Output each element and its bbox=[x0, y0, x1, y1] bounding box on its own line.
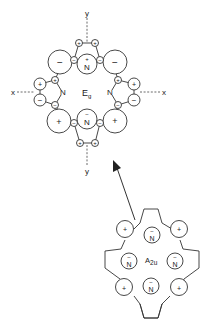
x-axis-label-right: x bbox=[162, 88, 166, 97]
arrow-head-icon bbox=[113, 160, 121, 172]
nitrogen-right-label: N bbox=[107, 88, 113, 97]
charge-sign: + bbox=[93, 140, 97, 146]
symmetry-label-eg: Eg bbox=[82, 88, 91, 99]
charge-sign: − bbox=[38, 96, 43, 105]
charge-sign: − bbox=[116, 102, 120, 108]
charge-sign: − bbox=[132, 96, 137, 105]
y-axis-label-bottom: y bbox=[85, 167, 89, 176]
charge-sign: − bbox=[150, 228, 154, 234]
y-axis-label-top: y bbox=[85, 9, 89, 18]
nitrogen-label: N bbox=[84, 63, 90, 72]
charge-sign: − bbox=[127, 254, 131, 260]
x-axis-label-left: x bbox=[11, 88, 15, 97]
charge-sign: − bbox=[85, 111, 89, 117]
a2u-orbital-diagram: + + + + − N − N − N − N A2u bbox=[105, 209, 199, 318]
charge-sign: + bbox=[93, 40, 97, 46]
charge-sign: + bbox=[38, 81, 42, 88]
charge-sign: + bbox=[85, 56, 89, 62]
charge-sign: + bbox=[132, 81, 136, 88]
eg-orbital-diagram: y y x x − bbox=[11, 9, 166, 176]
transition-arrow bbox=[113, 160, 135, 220]
charge-sign: + bbox=[116, 77, 120, 83]
charge-sign: − bbox=[98, 57, 102, 63]
charge-sign: + bbox=[177, 226, 181, 233]
charge-sign: + bbox=[112, 116, 117, 126]
porphyrin-orbital-diagram: y y x x − bbox=[0, 0, 213, 320]
nitrogen-label: N bbox=[172, 261, 177, 268]
charge-sign: + bbox=[56, 117, 61, 127]
charge-sign: − bbox=[72, 120, 76, 126]
charge-sign: + bbox=[177, 285, 181, 292]
charge-sign: + bbox=[122, 285, 126, 292]
charge-sign: − bbox=[173, 254, 177, 260]
symmetry-label-a2u: A2u bbox=[145, 256, 158, 266]
nitrogen-label: N bbox=[84, 118, 90, 127]
nitrogen-label: N bbox=[149, 235, 154, 242]
charge-sign: + bbox=[77, 40, 81, 46]
nitrogen-label: N bbox=[126, 261, 131, 268]
charge-sign: − bbox=[57, 57, 63, 68]
nitrogen-left-label: N bbox=[60, 88, 66, 97]
charge-sign: − bbox=[149, 279, 153, 285]
charge-sign: + bbox=[123, 226, 127, 233]
charge-sign: − bbox=[53, 102, 57, 108]
charge-sign: + bbox=[78, 140, 82, 146]
charge-sign: + bbox=[53, 77, 57, 83]
charge-sign: − bbox=[112, 57, 118, 68]
charge-sign: − bbox=[98, 120, 102, 126]
nitrogen-label: N bbox=[148, 286, 153, 293]
charge-sign: − bbox=[72, 57, 76, 63]
